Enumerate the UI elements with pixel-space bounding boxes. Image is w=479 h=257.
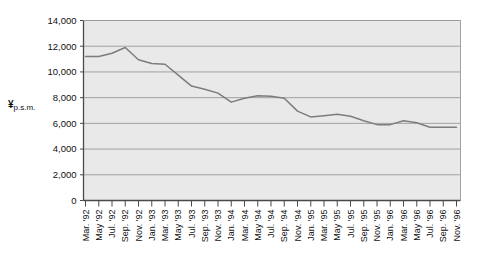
y-axis-tick-label: 8,000 bbox=[53, 92, 77, 103]
x-axis-tick-label: Mar. '96 bbox=[399, 210, 409, 242]
y-axis-ticks: 02,0004,0006,0008,00010,00012,00014,000 bbox=[47, 15, 83, 206]
y-axis-tick-label: 6,000 bbox=[53, 118, 77, 129]
x-axis-tick-label: May '94 bbox=[253, 210, 263, 241]
y-axis-tick-label: 12,000 bbox=[47, 41, 76, 52]
x-axis-tick-label: Sep. '93 bbox=[200, 210, 210, 243]
x-axis-tick-label: May '96 bbox=[412, 210, 422, 241]
x-axis-tick-label: May '95 bbox=[332, 210, 342, 241]
x-axis-tick-label: Jul. '96 bbox=[425, 210, 435, 238]
x-axis-tick-label: May '93 bbox=[173, 210, 183, 241]
x-axis-tick-label: May '92 bbox=[94, 210, 104, 241]
x-axis-tick-label: Sep. '94 bbox=[279, 210, 289, 243]
chart-container: ¥p.s.m. 02,0004,0006,0008,00010,00012,00… bbox=[0, 0, 479, 257]
x-axis-tick-label: Nov. '95 bbox=[372, 210, 382, 242]
x-axis-tick-label: Jul. '93 bbox=[187, 210, 197, 238]
x-axis-tick-label: Jul. '94 bbox=[266, 210, 276, 238]
x-axis-tick-label: Mar. '93 bbox=[160, 210, 170, 242]
y-axis-tick-label: 2,000 bbox=[53, 169, 77, 180]
x-axis-tick-label: Jan. '93 bbox=[147, 210, 157, 241]
x-axis-tick-label: Jan. '95 bbox=[306, 210, 316, 241]
y-axis-tick-label: 14,000 bbox=[47, 15, 76, 26]
x-axis-tick-label: Sep. '92 bbox=[120, 210, 130, 243]
x-axis-tick-label: Mar. '95 bbox=[319, 210, 329, 242]
plot-area-rect bbox=[84, 21, 461, 201]
x-axis-tick-label: Jan. '96 bbox=[385, 210, 395, 241]
x-axis-tick-label: Jul. '92 bbox=[107, 210, 117, 238]
y-axis-tick-label: 0 bbox=[71, 195, 76, 206]
x-axis-tick-label: Sep. '96 bbox=[438, 210, 448, 243]
x-axis-tick-label: Jul. '95 bbox=[346, 210, 356, 238]
line-chart-plot: 02,0004,0006,0008,00010,00012,00014,000 … bbox=[0, 0, 479, 257]
x-axis-ticks bbox=[86, 201, 457, 207]
y-axis-tick-label: 4,000 bbox=[53, 143, 77, 154]
x-axis-tick-label: Mar. '94 bbox=[240, 210, 250, 242]
x-axis-tick-label: Nov. '93 bbox=[213, 210, 223, 242]
x-axis-tick-label: Nov. '96 bbox=[452, 210, 462, 242]
x-axis-tick-label: Jan. '94 bbox=[226, 210, 236, 241]
plot-background bbox=[84, 21, 461, 201]
x-axis-tick-label: Nov. '92 bbox=[134, 210, 144, 242]
x-axis-labels: Mar. '92May '92Jul. '92Sep. '92Nov. '92J… bbox=[81, 210, 462, 243]
y-axis-tick-label: 10,000 bbox=[47, 66, 76, 77]
x-axis-tick-label: Nov. '94 bbox=[293, 210, 303, 242]
x-axis-tick-label: Mar. '92 bbox=[81, 210, 91, 242]
x-axis-tick-label: Sep. '95 bbox=[359, 210, 369, 243]
